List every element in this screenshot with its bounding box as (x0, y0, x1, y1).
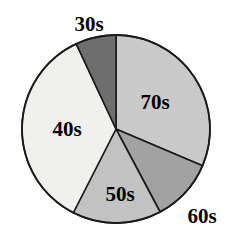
chart-title-clipped (0, 0, 229, 9)
pie-chart: 70s 60s 50s 40s 30s (0, 0, 229, 232)
pie-label-70s: 70s (140, 90, 169, 114)
pie-label-40s: 40s (52, 117, 81, 141)
pie-chart-svg: 70s 60s 50s 40s 30s (0, 0, 229, 232)
pie-label-60s: 60s (187, 204, 216, 228)
pie-label-30s: 30s (74, 12, 103, 36)
pie-label-50s: 50s (105, 182, 134, 206)
